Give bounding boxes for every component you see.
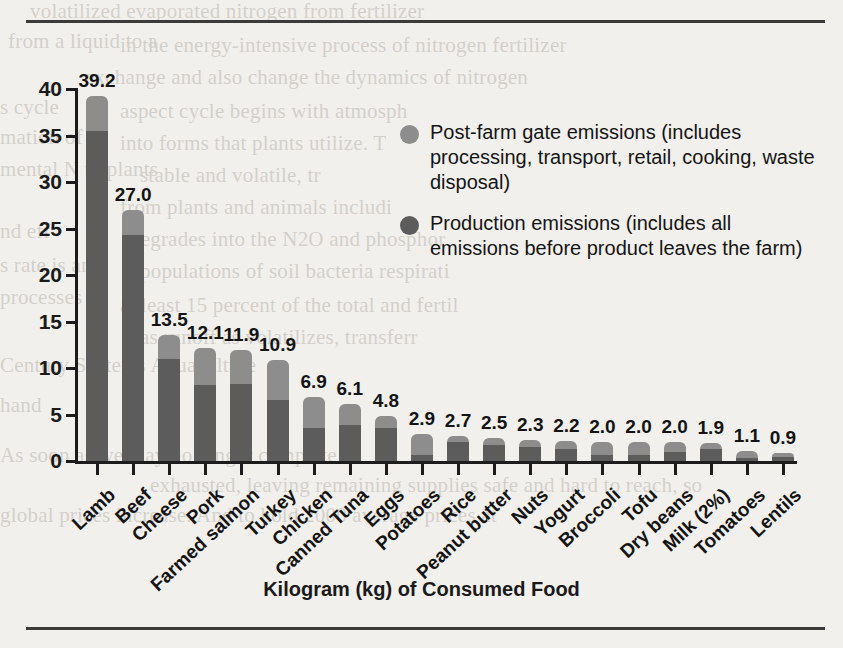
bar-segment-production xyxy=(591,455,613,462)
bar-value-label: 6.1 xyxy=(337,378,363,400)
x-axis-tick xyxy=(313,464,316,475)
bar-farmed-salmon[interactable]: 11.9 xyxy=(230,350,252,461)
bar-turkey[interactable]: 10.9 xyxy=(267,360,289,461)
x-axis-tick xyxy=(601,464,604,475)
bar-segment-production xyxy=(519,447,541,461)
bar-segment-production xyxy=(339,425,361,461)
y-axis-tick-label: 40 xyxy=(39,77,62,101)
x-axis-tick xyxy=(674,464,677,475)
bar-segment-production xyxy=(411,455,433,461)
bar-value-label: 4.8 xyxy=(373,390,399,412)
bar-rice[interactable]: 2.7 xyxy=(447,436,469,461)
bar-segment-post-farm xyxy=(519,440,541,447)
x-axis-tick xyxy=(746,464,749,475)
bar-value-label: 11.9 xyxy=(223,324,259,346)
bar-segment-production xyxy=(700,449,722,461)
bar-value-label: 2.5 xyxy=(481,412,507,434)
bar-segment-production xyxy=(230,384,252,461)
x-axis-tick xyxy=(349,464,352,475)
bar-segment-production xyxy=(267,400,289,461)
bar-value-label: 27.0 xyxy=(115,184,152,206)
x-axis-tick xyxy=(638,464,641,475)
bar-value-label: 2.0 xyxy=(661,416,687,438)
chart-legend: Post-farm gate emissions (includes proce… xyxy=(400,120,820,277)
bar-value-label: 2.9 xyxy=(409,408,435,430)
bar-lentils[interactable]: 0.9 xyxy=(772,453,794,461)
bar-cheese[interactable]: 13.5 xyxy=(158,335,180,461)
bar-segment-production xyxy=(194,385,216,461)
bar-value-label: 2.0 xyxy=(589,416,615,438)
bar-segment-production xyxy=(483,445,505,461)
bar-value-label: 2.7 xyxy=(445,410,471,432)
legend-label-post-farm: Post-farm gate emissions (includes proce… xyxy=(430,120,820,195)
x-axis-tick xyxy=(277,464,280,475)
y-axis-tick xyxy=(66,367,75,370)
x-axis-tick xyxy=(132,464,135,475)
bar-segment-production xyxy=(303,428,325,461)
bar-pork[interactable]: 12.1 xyxy=(194,348,216,461)
bar-segment-post-farm xyxy=(230,350,252,383)
bar-tomatoes[interactable]: 1.1 xyxy=(736,451,758,461)
bar-segment-production xyxy=(555,449,577,461)
bar-value-label: 12.1 xyxy=(187,322,224,344)
bar-segment-production xyxy=(447,442,469,461)
x-axis-title: Kilogram (kg) of Consumed Food xyxy=(0,578,843,601)
bar-lamb[interactable]: 39.2 xyxy=(86,96,108,461)
bar-segment-production xyxy=(158,359,180,461)
x-axis-tick xyxy=(240,464,243,475)
bar-value-label: 39.2 xyxy=(79,70,116,92)
y-axis-tick-label: 5 xyxy=(50,403,62,427)
y-axis-tick xyxy=(66,181,75,184)
bar-eggs[interactable]: 4.8 xyxy=(375,416,397,461)
bar-segment-production xyxy=(375,428,397,461)
bar-nuts[interactable]: 2.3 xyxy=(519,440,541,461)
bar-chicken[interactable]: 6.9 xyxy=(303,397,325,461)
bar-segment-post-farm xyxy=(375,416,397,428)
bar-milk-2[interactable]: 1.9 xyxy=(700,443,722,461)
y-axis-tick-label: 15 xyxy=(39,310,62,334)
bar-segment-post-farm xyxy=(483,438,505,445)
bar-peanut-butter[interactable]: 2.5 xyxy=(483,438,505,461)
x-axis-tick xyxy=(529,464,532,475)
bar-segment-post-farm xyxy=(339,404,361,424)
bar-value-label: 1.9 xyxy=(698,417,724,439)
y-axis-tick xyxy=(66,88,75,91)
legend-label-production: Production emissions (includes all emiss… xyxy=(430,211,820,261)
bar-segment-production xyxy=(628,455,650,462)
bar-segment-post-farm xyxy=(86,96,108,130)
bar-value-label: 6.9 xyxy=(300,371,326,393)
y-axis-line xyxy=(75,88,78,464)
bar-canned-tuna[interactable]: 6.1 xyxy=(339,404,361,461)
y-axis-tick xyxy=(66,414,75,417)
x-axis-tick xyxy=(710,464,713,475)
y-axis-tick xyxy=(66,460,75,463)
x-axis-tick xyxy=(565,464,568,475)
legend-item-production: Production emissions (includes all emiss… xyxy=(400,211,820,261)
y-axis-tick xyxy=(66,228,75,231)
bar-segment-post-farm xyxy=(664,442,686,451)
bar-segment-post-farm xyxy=(591,442,613,454)
bar-segment-production xyxy=(664,452,686,461)
bar-segment-production xyxy=(736,458,758,461)
bar-dry-beans[interactable]: 2.0 xyxy=(664,442,686,461)
bar-value-label: 2.0 xyxy=(625,416,651,438)
bar-potatoes[interactable]: 2.9 xyxy=(411,434,433,461)
y-axis-tick xyxy=(66,274,75,277)
bar-tofu[interactable]: 2.0 xyxy=(628,442,650,461)
y-axis-tick xyxy=(66,321,75,324)
y-axis-tick-label: 20 xyxy=(39,263,62,287)
bar-yogurt[interactable]: 2.2 xyxy=(555,441,577,461)
bar-value-label: 10.9 xyxy=(259,334,296,356)
emissions-bar-chart: kg CO2e 0510152025303540 39.2Lamb27.0Bee… xyxy=(0,0,843,648)
x-axis-tick xyxy=(168,464,171,475)
x-axis-tick xyxy=(421,464,424,475)
y-axis-tick-label: 30 xyxy=(39,170,62,194)
bar-segment-post-farm xyxy=(158,335,180,358)
x-axis-line xyxy=(75,461,797,464)
bar-value-label: 2.3 xyxy=(517,414,543,436)
y-axis-tick-label: 10 xyxy=(39,356,62,380)
bar-value-label: 0.9 xyxy=(770,427,796,449)
bar-beef[interactable]: 27.0 xyxy=(122,210,144,461)
bar-broccoli[interactable]: 2.0 xyxy=(591,442,613,461)
bar-segment-post-farm xyxy=(303,397,325,429)
